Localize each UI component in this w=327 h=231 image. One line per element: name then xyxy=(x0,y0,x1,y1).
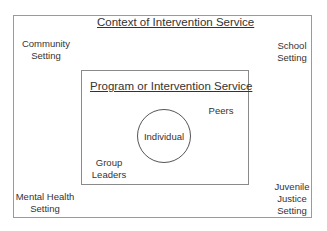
label-line: Leaders xyxy=(88,169,130,181)
label-line: Setting xyxy=(270,52,314,64)
program-title: Program or Intervention Service xyxy=(90,80,252,92)
individual-label: Individual xyxy=(144,131,184,142)
label-line: Setting xyxy=(270,205,314,217)
peers-label: Peers xyxy=(206,105,236,117)
label-line: Juvenile xyxy=(270,181,314,193)
school-setting-label: School Setting xyxy=(270,40,314,64)
individual-circle: Individual xyxy=(137,109,191,163)
label-line: Justice xyxy=(270,193,314,205)
label-line: Setting xyxy=(18,50,74,62)
community-setting-label: Community Setting xyxy=(18,38,74,62)
group-leaders-label: Group Leaders xyxy=(88,157,130,181)
label-line: Mental Health xyxy=(12,191,78,203)
label-line: School xyxy=(270,40,314,52)
label-line: Group xyxy=(88,157,130,169)
mental-health-setting-label: Mental Health Setting xyxy=(12,191,78,215)
label-line: Community xyxy=(18,38,74,50)
label-line: Setting xyxy=(12,203,78,215)
context-title: Context of Intervention Service xyxy=(97,16,254,28)
juvenile-justice-setting-label: Juvenile Justice Setting xyxy=(270,181,314,217)
